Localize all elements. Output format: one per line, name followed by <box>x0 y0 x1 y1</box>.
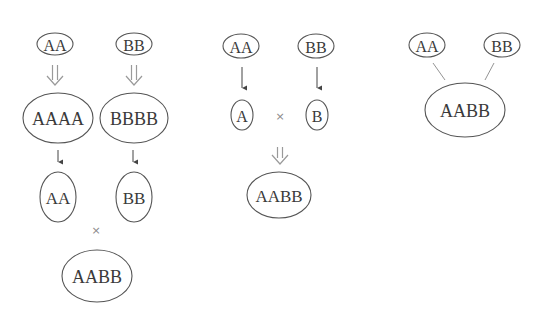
node-left-low-bb: BB <box>116 172 152 222</box>
node-left-top-aa: AA <box>37 33 73 55</box>
middle-panel: AA BB A B × AABB <box>223 34 334 218</box>
node-label: AA <box>46 189 71 208</box>
node-left-mid-aaaa: AAAA <box>23 93 93 143</box>
node-mid-result-aabb: AABB <box>247 172 311 218</box>
connector-line <box>485 63 494 80</box>
node-mid-gamete-b: B <box>306 100 328 130</box>
node-label: B <box>312 108 323 125</box>
node-right-top-bb: BB <box>484 33 520 57</box>
node-label: AA <box>229 39 253 56</box>
double-arrow-icon <box>47 65 63 85</box>
node-label: BB <box>491 38 512 55</box>
node-right-top-aa: AA <box>409 33 445 57</box>
node-label: BB <box>305 39 326 56</box>
double-arrow-icon <box>126 65 142 85</box>
node-left-low-aa: AA <box>40 172 76 222</box>
double-arrow-icon <box>272 147 288 164</box>
node-label: BB <box>123 37 144 54</box>
node-left-result-aabb: AABB <box>62 250 132 302</box>
node-label: AA <box>415 38 439 55</box>
node-label: AABB <box>72 267 122 287</box>
cross-symbol: × <box>91 224 100 237</box>
left-panel: AA BB AAAA BBBB AA <box>23 33 168 302</box>
node-label: BB <box>123 189 146 208</box>
node-label: AA <box>43 37 67 54</box>
node-mid-gamete-a: A <box>231 100 253 130</box>
node-left-top-bb: BB <box>116 33 152 55</box>
hybridization-diagram: AA BB AAAA BBBB AA <box>0 0 540 318</box>
node-label: BBBB <box>110 109 158 129</box>
node-left-mid-bbbb: BBBB <box>100 93 168 143</box>
node-right-result-aabb: AABB <box>425 83 505 137</box>
node-mid-top-aa: AA <box>223 34 259 58</box>
node-label: AAAA <box>32 109 84 129</box>
cross-symbol: × <box>275 110 284 123</box>
connector-line <box>433 63 445 80</box>
node-label: A <box>236 108 248 125</box>
right-panel: AA BB AABB <box>409 33 520 137</box>
node-label: AABB <box>440 101 490 121</box>
node-mid-top-bb: BB <box>298 34 334 58</box>
diagram-canvas: AA BB AAAA BBBB AA <box>0 0 540 318</box>
node-label: AABB <box>255 187 302 206</box>
